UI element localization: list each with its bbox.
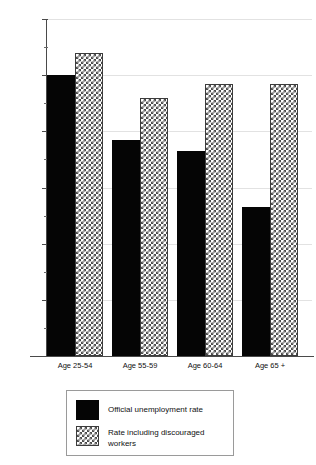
- bar-discouraged: [75, 53, 103, 356]
- gridline: [47, 19, 312, 20]
- y-minor-tick: [44, 47, 48, 48]
- x-axis-line: [30, 356, 314, 357]
- bar-official: [47, 75, 75, 356]
- x-tick-label: Age 25-54: [45, 362, 105, 370]
- legend-entry-official: Official unemployment rate: [76, 400, 203, 420]
- legend-label-discouraged: Rate including discouraged workers: [108, 426, 232, 449]
- chart-legend: Official unemployment rate Rate includin…: [66, 390, 234, 456]
- legend-entry-discouraged: Rate including discouraged workers: [76, 426, 232, 449]
- legend-swatch-discouraged: [76, 426, 99, 446]
- y-tick: [42, 356, 48, 357]
- legend-swatch-official: [76, 400, 99, 420]
- bar-discouraged: [140, 98, 168, 356]
- bar-discouraged: [270, 84, 298, 356]
- x-tick-label: Age 65 +: [240, 362, 300, 370]
- bar-official: [177, 151, 205, 356]
- plot-area: 0123456: [47, 19, 312, 356]
- bar-discouraged: [205, 84, 233, 356]
- x-tick-label: Age 55-59: [110, 362, 170, 370]
- legend-label-official: Official unemployment rate: [108, 400, 203, 415]
- bar-official: [242, 207, 270, 356]
- x-tick-label: Age 60-64: [175, 362, 235, 370]
- y-tick: [42, 19, 48, 20]
- bar-official: [112, 140, 140, 356]
